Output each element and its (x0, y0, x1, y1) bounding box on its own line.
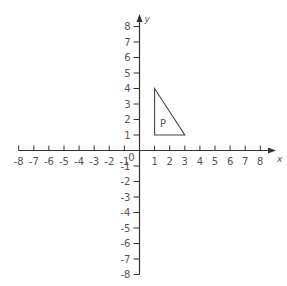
x-tick-label: -8 (14, 156, 24, 167)
x-tick-label: 2 (167, 156, 173, 167)
y-axis-label: y (144, 14, 151, 24)
y-tick-label: -6 (121, 238, 131, 249)
x-axis-label: x (276, 154, 283, 164)
x-axis-arrow-icon (268, 148, 276, 154)
x-tick-label: 7 (242, 156, 248, 167)
x-tick-label: 6 (227, 156, 233, 167)
y-tick-label: 4 (124, 83, 130, 94)
x-tick-label: -4 (74, 156, 84, 167)
x-tick-label: 1 (151, 156, 157, 167)
x-tick-label: -7 (29, 156, 39, 167)
x-tick-label: 8 (257, 156, 263, 167)
coordinate-plane: xy-8-7-6-5-4-3-2-112345678-8-7-6-5-4-3-2… (0, 0, 287, 286)
y-tick-label: 8 (124, 21, 130, 32)
y-tick-label: -4 (121, 207, 131, 218)
y-tick-label: 6 (124, 52, 130, 63)
x-tick-label: 3 (182, 156, 188, 167)
y-tick-label: 1 (124, 130, 130, 141)
x-tick-label: -5 (59, 156, 69, 167)
y-tick-label: 5 (124, 68, 130, 79)
y-tick-label: -8 (121, 269, 131, 280)
x-tick-label: 4 (197, 156, 203, 167)
y-tick-label: -2 (121, 176, 131, 187)
y-axis-arrow-icon (137, 14, 143, 22)
y-tick-label: 7 (124, 37, 130, 48)
x-tick-label: 5 (212, 156, 218, 167)
x-tick-label: -3 (89, 156, 99, 167)
y-tick-label: 2 (124, 114, 130, 125)
y-tick-label: -5 (121, 223, 131, 234)
y-tick-label: -3 (121, 192, 131, 203)
origin-label: 0 (128, 152, 134, 163)
y-tick-label: -7 (121, 254, 131, 265)
x-tick-label: -2 (104, 156, 114, 167)
shape-label-p: P (160, 118, 166, 129)
coordinate-grid: xy-8-7-6-5-4-3-2-112345678-8-7-6-5-4-3-2… (0, 0, 287, 286)
y-tick-label: 3 (124, 99, 130, 110)
x-tick-label: -6 (44, 156, 54, 167)
